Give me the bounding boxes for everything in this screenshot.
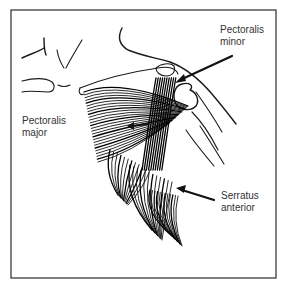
label-pectoralis-minor: Pectoralis minor bbox=[220, 24, 267, 47]
label-pectoralis-major: Pectoralis major bbox=[22, 115, 69, 138]
label-serratus-anterior: Serratus anterior bbox=[221, 190, 262, 213]
serratus-anterior-arrow bbox=[176, 185, 214, 200]
clavicle-sternum-outline bbox=[22, 38, 82, 92]
anatomy-figure: Pectoralis minor Pectoralis major Serrat… bbox=[0, 0, 287, 289]
figure-frame bbox=[11, 10, 276, 278]
